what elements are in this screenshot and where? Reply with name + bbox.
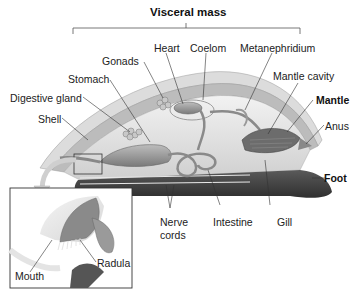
mollusc-body-plan-diagram: Visceral mass Heart Coelom Metanephridiu… [0, 0, 359, 294]
label-gonads: Gonads [102, 55, 139, 67]
label-foot: Foot [324, 172, 347, 184]
label-heart: Heart [154, 42, 180, 54]
label-digestive-gland: Digestive gland [10, 92, 82, 104]
label-coelom: Coelom [190, 42, 226, 54]
label-metanephridium: Metanephridium [240, 42, 315, 54]
heart-shape [174, 102, 202, 114]
label-anus: Anus [325, 120, 349, 132]
label-nerve-cords-line2: cords [160, 229, 186, 241]
label-nerve-cords-line1: Nerve [160, 216, 188, 228]
label-shell: Shell [38, 113, 61, 125]
label-stomach: Stomach [68, 73, 109, 85]
visceral-mass-bracket [73, 23, 300, 34]
label-mantle-cavity: Mantle cavity [273, 70, 334, 82]
label-gill: Gill [277, 216, 292, 228]
label-radula: Radula [97, 257, 130, 269]
label-intestine: Intestine [213, 216, 253, 228]
visceral-mass-title: Visceral mass [150, 6, 227, 18]
label-mouth: Mouth [15, 270, 44, 282]
label-mantle: Mantle [316, 94, 349, 106]
